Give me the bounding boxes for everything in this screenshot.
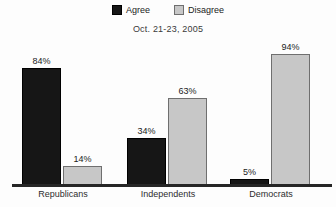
agree-swatch-icon <box>112 5 122 15</box>
legend: Agree Disagree <box>0 5 336 15</box>
legend-label-disagree: Disagree <box>188 5 224 15</box>
bar-group-democrats: 5%94% <box>230 42 310 186</box>
category-label-democrats: Democrats <box>211 189 331 199</box>
bar-republicans-agree <box>22 68 61 186</box>
legend-item-disagree: Disagree <box>174 5 224 15</box>
category-label-republicans: Republicans <box>3 189 123 199</box>
x-axis-line <box>12 184 332 187</box>
bar-democrats-disagree <box>271 54 310 186</box>
bar-value-label: 84% <box>32 56 50 66</box>
bar-cell-republicans-disagree: 14% <box>63 154 102 186</box>
bar-republicans-disagree <box>63 166 102 186</box>
bar-cell-independents-agree: 34% <box>127 126 166 186</box>
bar-independents-disagree <box>168 98 207 186</box>
chart-plot: 84%14%34%63%5%94% <box>0 40 336 186</box>
bar-value-label: 5% <box>243 167 256 177</box>
bar-cell-independents-disagree: 63% <box>168 86 207 186</box>
chart-subtitle: Oct. 21-23, 2005 <box>0 24 336 34</box>
bar-cell-republicans-agree: 84% <box>22 56 61 186</box>
bar-independents-agree <box>127 138 166 186</box>
legend-label-agree: Agree <box>126 5 150 15</box>
bar-value-label: 14% <box>73 154 91 164</box>
bar-value-label: 34% <box>137 126 155 136</box>
bar-group-independents: 34%63% <box>127 86 207 186</box>
legend-item-agree: Agree <box>112 5 150 15</box>
bar-group-republicans: 84%14% <box>22 56 102 186</box>
bar-cell-democrats-disagree: 94% <box>271 42 310 186</box>
bar-value-label: 94% <box>281 42 299 52</box>
chart-root: Agree Disagree Oct. 21-23, 2005 84%14%34… <box>0 0 336 207</box>
category-label-independents: Independents <box>108 189 228 199</box>
disagree-swatch-icon <box>174 5 184 15</box>
bar-value-label: 63% <box>178 86 196 96</box>
